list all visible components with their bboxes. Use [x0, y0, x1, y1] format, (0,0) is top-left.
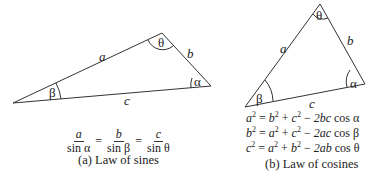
law-of-sines-caption: (a) Law of sines: [78, 153, 159, 168]
sines-triangle: [13, 33, 211, 103]
angle-beta-label-right: β: [256, 92, 263, 105]
law-of-cosines-formulas: a2 = b2 + c2 − 2bc cos α b2 = a2 + c2 − …: [246, 111, 359, 156]
side-c-label: c: [124, 94, 130, 107]
cosine-formula-3: c2 = a2 + b2 − 2ab cos θ: [246, 141, 359, 156]
law-of-sines-formula: asin α = bsin β = csin θ: [66, 128, 171, 155]
side-b-label-right: b: [347, 34, 354, 47]
angle-theta-label-right: θ: [316, 9, 322, 22]
law-of-cosines-caption: (b) Law of cosines: [265, 157, 358, 172]
side-c-label-right: c: [309, 97, 315, 110]
angle-alpha-label-right: α: [350, 77, 357, 90]
side-a-label: a: [99, 50, 106, 63]
cosines-triangle: [245, 4, 365, 107]
cosine-formula-2: b2 = a2 + c2 − 2ac cos β: [246, 126, 359, 141]
side-a-label-right: a: [280, 42, 287, 55]
side-b-label: b: [187, 47, 194, 60]
angle-alpha-label: α: [194, 75, 201, 88]
angle-beta-label: β: [49, 86, 56, 99]
cosine-formula-1: a2 = b2 + c2 − 2bc cos α: [246, 111, 359, 126]
angle-theta-label: θ: [158, 36, 164, 49]
